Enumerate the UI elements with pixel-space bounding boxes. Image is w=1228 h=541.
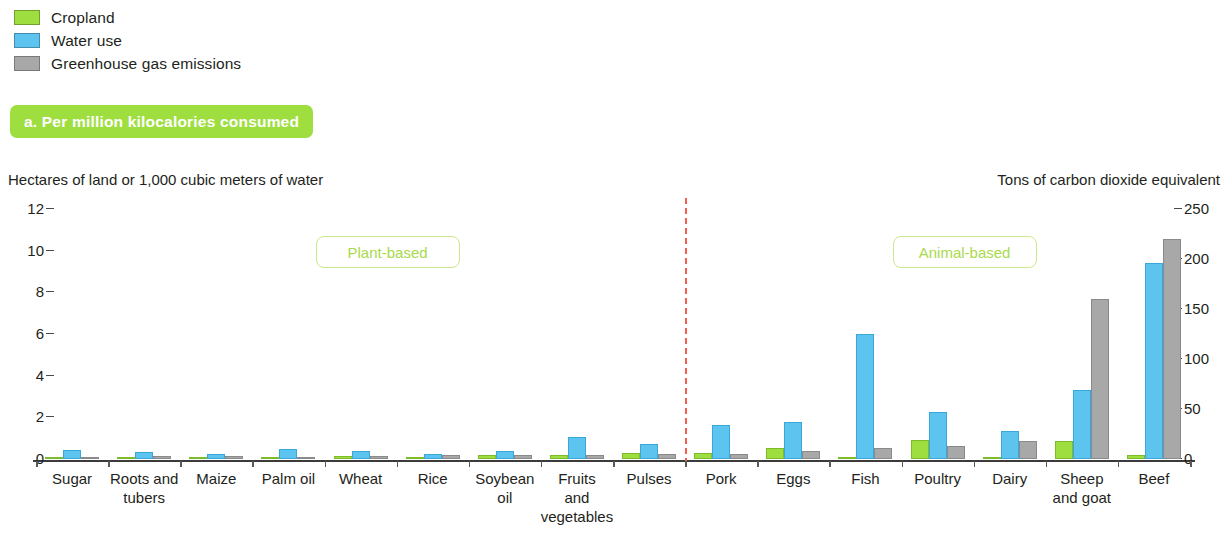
- bar-group[interactable]: [1053, 197, 1111, 459]
- bar-greenhouse-gas-emissions[interactable]: [586, 455, 604, 459]
- legend-label: Water use: [51, 32, 122, 50]
- bar-water-use[interactable]: [352, 451, 370, 459]
- bar-cropland[interactable]: [189, 457, 207, 459]
- region-label-pill: Animal-based: [893, 236, 1037, 268]
- bar-cropland[interactable]: [478, 455, 496, 459]
- bar-greenhouse-gas-emissions[interactable]: [514, 455, 532, 459]
- left-axis-caption: Hectares of land or 1,000 cubic meters o…: [8, 171, 323, 188]
- bar-water-use[interactable]: [568, 437, 586, 459]
- bar-greenhouse-gas-emissions[interactable]: [370, 456, 388, 459]
- bar-group[interactable]: [259, 197, 317, 459]
- bar-group[interactable]: [836, 197, 894, 459]
- bar-cropland[interactable]: [261, 457, 279, 459]
- bar-cropland[interactable]: [838, 457, 856, 459]
- region-label-pill: Plant-based: [316, 236, 460, 268]
- bar-greenhouse-gas-emissions[interactable]: [1019, 441, 1037, 459]
- y-axis-tick-right: 50: [1184, 401, 1228, 417]
- panel-title: a. Per million kilocalories consumed: [10, 105, 313, 138]
- legend-label: Greenhouse gas emissions: [51, 55, 241, 73]
- x-axis-tick-mark: [974, 461, 976, 467]
- bar-water-use[interactable]: [712, 425, 730, 459]
- x-axis-tick-mark: [829, 461, 831, 467]
- bar-greenhouse-gas-emissions[interactable]: [442, 455, 460, 459]
- x-axis-tick-mark: [397, 461, 399, 467]
- bar-water-use[interactable]: [135, 452, 153, 459]
- bar-cropland[interactable]: [45, 457, 63, 459]
- bar-water-use[interactable]: [424, 454, 442, 459]
- legend-item: Water use: [14, 29, 241, 52]
- y-axis-tick-right: 200: [1184, 251, 1228, 267]
- bar-greenhouse-gas-emissions[interactable]: [802, 451, 820, 459]
- x-axis-tick-mark: [1046, 461, 1048, 467]
- legend: Cropland Water use Greenhouse gas emissi…: [14, 6, 241, 75]
- bar-water-use[interactable]: [63, 450, 81, 459]
- legend-item: Cropland: [14, 6, 241, 29]
- plant-animal-divider: [685, 198, 687, 464]
- legend-swatch-ghg: [14, 56, 40, 71]
- bar-group[interactable]: [548, 197, 606, 459]
- legend-item: Greenhouse gas emissions: [14, 52, 241, 75]
- bar-water-use[interactable]: [929, 412, 947, 459]
- x-axis-tick-mark: [180, 461, 182, 467]
- bar-water-use[interactable]: [496, 451, 514, 459]
- bar-cropland[interactable]: [983, 457, 1001, 459]
- bar-greenhouse-gas-emissions[interactable]: [153, 456, 171, 459]
- bar-cropland[interactable]: [694, 453, 712, 459]
- bar-water-use[interactable]: [784, 422, 802, 460]
- bar-group[interactable]: [187, 197, 245, 459]
- x-axis-tick-mark: [685, 461, 687, 467]
- x-axis-tick-mark: [325, 461, 327, 467]
- bar-cropland[interactable]: [406, 457, 424, 459]
- bar-water-use[interactable]: [1145, 263, 1163, 459]
- bar-water-use[interactable]: [640, 444, 658, 459]
- bar-greenhouse-gas-emissions[interactable]: [225, 456, 243, 459]
- x-axis-tick-mark: [36, 461, 38, 467]
- y-axis-tick-right: 250: [1184, 201, 1228, 217]
- bar-cropland[interactable]: [766, 448, 784, 459]
- bar-water-use[interactable]: [1073, 390, 1091, 459]
- bar-greenhouse-gas-emissions[interactable]: [947, 446, 965, 459]
- x-axis-tick-mark: [757, 461, 759, 467]
- legend-swatch-cropland: [14, 10, 40, 25]
- y-axis-tick-left: 4: [0, 368, 44, 384]
- bar-greenhouse-gas-emissions[interactable]: [658, 454, 676, 459]
- bar-greenhouse-gas-emissions[interactable]: [297, 457, 315, 459]
- bar-cropland[interactable]: [550, 455, 568, 459]
- bar-group[interactable]: [1125, 197, 1183, 459]
- bar-greenhouse-gas-emissions[interactable]: [1163, 239, 1181, 459]
- bar-greenhouse-gas-emissions[interactable]: [1091, 299, 1109, 459]
- bar-group[interactable]: [692, 197, 750, 459]
- y-axis-tick-left: 8: [0, 284, 44, 300]
- x-axis-label: Beef: [1099, 469, 1209, 488]
- bar-cropland[interactable]: [622, 453, 640, 459]
- y-axis-tick-left: 12: [0, 201, 44, 217]
- x-axis-tick-mark: [1118, 461, 1120, 467]
- bar-greenhouse-gas-emissions[interactable]: [730, 454, 748, 459]
- bar-group[interactable]: [476, 197, 534, 459]
- legend-swatch-water: [14, 33, 40, 48]
- bar-group[interactable]: [764, 197, 822, 459]
- bar-group[interactable]: [43, 197, 101, 459]
- bar-greenhouse-gas-emissions[interactable]: [81, 457, 99, 459]
- x-axis-tick-mark: [108, 461, 110, 467]
- bar-cropland[interactable]: [1055, 441, 1073, 459]
- x-axis-tick-mark: [613, 461, 615, 467]
- y-axis-tick-right: 150: [1184, 301, 1228, 317]
- y-axis-tick-left: 6: [0, 326, 44, 342]
- bar-cropland[interactable]: [1127, 455, 1145, 459]
- bar-water-use[interactable]: [279, 449, 297, 459]
- right-axis-caption: Tons of carbon dioxide equivalent: [997, 171, 1220, 188]
- bar-cropland[interactable]: [117, 457, 135, 460]
- bar-group[interactable]: [115, 197, 173, 459]
- x-axis-tick-mark: [541, 461, 543, 467]
- bar-water-use[interactable]: [207, 454, 225, 459]
- bar-group[interactable]: [620, 197, 678, 459]
- y-axis-tick-left: 2: [0, 409, 44, 425]
- bar-water-use[interactable]: [1001, 431, 1019, 459]
- bar-greenhouse-gas-emissions[interactable]: [874, 448, 892, 459]
- bar-water-use[interactable]: [856, 334, 874, 459]
- bar-cropland[interactable]: [911, 440, 929, 459]
- x-axis-tick-mark: [252, 461, 254, 467]
- x-axis-tick-mark: [902, 461, 904, 467]
- bar-cropland[interactable]: [334, 456, 352, 459]
